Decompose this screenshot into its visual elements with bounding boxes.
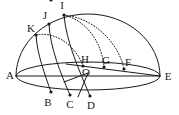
vertex-dot-F [122,67,125,70]
point-label-H: H [81,53,89,65]
point-label-I: I [60,0,64,11]
point-label-O: O [82,66,90,78]
vertex-dot-I [62,13,65,16]
point-label-D: D [87,99,95,111]
vertex-dot-K [34,33,37,36]
point-label-B: B [44,96,51,108]
vertex-dot-C [68,93,71,96]
dotted-arc-i-f-path [64,15,124,69]
point-label-E: E [165,70,172,82]
chord-h-f-e-path [66,64,160,76]
point-label-J: J [43,9,48,21]
hemisphere-diagram: A E O B C D F G H I J K [0,0,179,115]
vertex-dot-D [88,94,91,97]
vertex-dot-B-y [49,90,52,93]
vertex-dot-J [47,22,50,25]
meridian-arc-k-b-path [36,35,51,92]
point-label-K: K [27,22,35,34]
geometry-figure: A E O B C D F G H I J K [0,0,179,115]
point-label-C: C [66,98,73,110]
point-label-F: F [125,56,131,68]
vertex-dot-G [102,65,105,68]
vertex-dot-B [49,0,52,2]
point-label-G: G [102,54,110,66]
point-label-A: A [6,69,14,81]
